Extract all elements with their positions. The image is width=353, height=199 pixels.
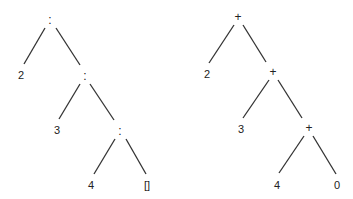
tree-node: 2 bbox=[18, 70, 24, 81]
cons-list-tree-edges bbox=[24, 28, 146, 174]
tree-edge bbox=[209, 25, 234, 63]
tree-edge bbox=[90, 84, 114, 120]
tree-node: 2 bbox=[204, 69, 210, 80]
tree-node: + bbox=[305, 122, 312, 134]
tree-node: + bbox=[269, 66, 276, 78]
tree-node: : bbox=[83, 70, 86, 82]
tree-edge bbox=[279, 136, 304, 173]
tree-edge bbox=[59, 84, 80, 119]
tree-node: 3 bbox=[238, 124, 244, 135]
tree-node: + bbox=[234, 11, 241, 23]
tree-edge bbox=[243, 80, 269, 118]
tree-node: : bbox=[48, 14, 51, 26]
tree-edge bbox=[24, 28, 45, 64]
tree-edge bbox=[126, 139, 146, 174]
tree-edge bbox=[243, 25, 266, 62]
tree-edge bbox=[313, 136, 336, 174]
tree-node: : bbox=[118, 125, 121, 137]
tree-edge bbox=[278, 80, 302, 118]
tree-node: 4 bbox=[274, 180, 280, 191]
tree-edge bbox=[94, 139, 115, 174]
tree-node: [] bbox=[144, 180, 150, 191]
tree-node: 4 bbox=[88, 180, 94, 191]
tree-edges bbox=[0, 0, 353, 199]
tree-node: 3 bbox=[54, 125, 60, 136]
tree-node: 0 bbox=[334, 180, 340, 191]
sum-tree-edges bbox=[209, 25, 336, 174]
tree-edge bbox=[56, 28, 80, 65]
